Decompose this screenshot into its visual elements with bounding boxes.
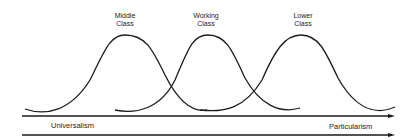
working-class-label: Working Class — [183, 12, 229, 28]
working-class-label-line1: Working — [183, 12, 229, 20]
working-class-label-line2: Class — [183, 20, 229, 28]
universalism-label: Universalism — [51, 121, 94, 130]
lower-class-label-line1: Lower — [283, 12, 323, 20]
lower-axis-arrow-icon — [388, 133, 395, 137]
middle-class-curve — [25, 35, 207, 112]
middle-class-label-line1: Middle — [105, 12, 145, 20]
lower-class-label: Lower Class — [283, 12, 323, 28]
particularism-label: Particularism — [329, 122, 372, 131]
middle-class-label: Middle Class — [105, 12, 145, 28]
working-class-curve — [115, 35, 300, 111]
middle-class-label-line2: Class — [105, 20, 145, 28]
lower-class-label-line2: Class — [283, 20, 323, 28]
upper-axis-arrow-icon — [388, 114, 395, 118]
